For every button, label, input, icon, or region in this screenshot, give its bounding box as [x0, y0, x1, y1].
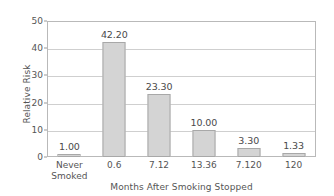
y-axis-tick-mark: [44, 102, 47, 103]
x-axis-tick-label: Never Smoked: [51, 160, 87, 181]
y-axis-tick-label: 20: [0, 98, 43, 108]
x-axis-ticks: Never Smoked0.67.1213.367.120120: [47, 160, 316, 184]
y-axis-tick-label: 0: [0, 152, 43, 162]
gridline: [48, 104, 315, 105]
y-axis-tick-label: 30: [0, 70, 43, 80]
y-axis-tick-label: 40: [0, 43, 43, 53]
y-axis-tick-mark: [44, 75, 47, 76]
x-axis-tick-label: 120: [285, 160, 302, 171]
gridline: [48, 76, 315, 77]
gridline: [48, 49, 315, 50]
x-axis-tick-label: 7.12: [149, 160, 169, 171]
bar-chart: Relative Risk 01020304050 1.0042.2023.30…: [0, 0, 334, 196]
gridline: [48, 131, 315, 132]
x-axis-tick-label: 7.120: [236, 160, 262, 171]
x-axis-tick-label: 0.6: [107, 160, 121, 171]
y-axis-tick-mark: [44, 129, 47, 130]
y-axis-tick-mark: [44, 48, 47, 49]
y-axis-tick-label: 10: [0, 125, 43, 135]
y-axis-tick-label: 50: [0, 16, 43, 26]
plot-area: [47, 21, 316, 157]
y-axis-tick-mark: [44, 21, 47, 22]
x-axis-title: Months After Smoking Stopped: [47, 182, 316, 192]
y-axis-tick-mark: [44, 157, 47, 158]
x-axis-tick-label: 13.36: [191, 160, 217, 171]
